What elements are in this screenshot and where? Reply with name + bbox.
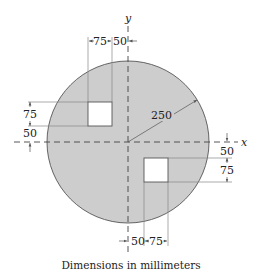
square-hole-bottom-right	[144, 158, 168, 182]
left-hole-height-label: 75	[23, 108, 37, 121]
plate-diagram: x y 250 75 50 75 50 50 75 50 75	[0, 0, 262, 276]
x-axis-label: x	[241, 136, 248, 149]
caption: Dimensions in millimeters	[0, 259, 262, 271]
right-hole-offset-y-label: 50	[220, 145, 234, 158]
left-hole-offset-y-label: 50	[23, 127, 37, 140]
top-hole-offset-x-label: 50	[113, 35, 127, 48]
bottom-hole-width-label: 75	[149, 235, 163, 248]
top-hole-width-label: 75	[93, 35, 107, 48]
square-hole-top-left	[88, 102, 112, 126]
right-hole-height-label: 75	[220, 164, 234, 177]
bottom-hole-offset-x-label: 50	[131, 235, 145, 248]
radius-label: 250	[151, 109, 172, 122]
y-axis-label: y	[124, 12, 132, 25]
